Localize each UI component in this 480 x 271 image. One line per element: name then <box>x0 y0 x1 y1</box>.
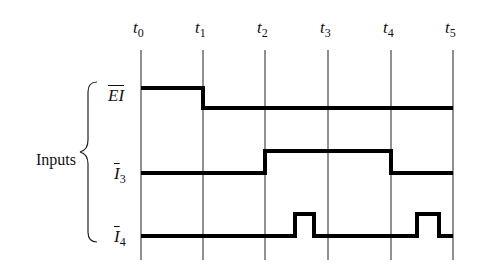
time-marker-label: t2 <box>257 18 268 41</box>
timing-diagram <box>0 0 480 271</box>
signal-label-i4: I4 <box>114 227 126 250</box>
signal-label-i3: I3 <box>114 164 126 187</box>
time-marker-label: t3 <box>320 18 331 41</box>
time-marker-label: t0 <box>133 18 144 41</box>
brace-icon <box>80 82 97 242</box>
time-marker-label: t1 <box>195 18 206 41</box>
waveform <box>141 88 453 108</box>
time-marker-label: t4 <box>383 18 394 41</box>
waveform <box>141 214 453 236</box>
time-marker-label: t5 <box>445 18 456 41</box>
signal-label-ei: EI <box>108 86 124 106</box>
signal-waveforms <box>141 88 453 236</box>
waveform <box>141 151 453 173</box>
inputs-group-label: Inputs <box>36 151 76 169</box>
